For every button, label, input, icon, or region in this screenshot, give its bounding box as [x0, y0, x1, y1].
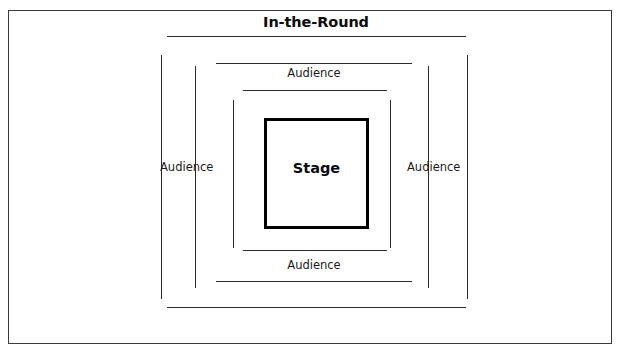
- stage-label: Stage: [264, 160, 369, 176]
- audience-label-right: Audience: [407, 160, 471, 174]
- ring-3-left-line: [233, 100, 234, 248]
- ring-3-right-line: [390, 100, 391, 248]
- ring-1-top-line: [167, 36, 466, 37]
- ring-1-left-line: [161, 55, 162, 299]
- audience-label-bottom: Audience: [216, 258, 412, 272]
- diagram-title: In-the-Round: [168, 14, 464, 30]
- ring-2-bottom-line: [216, 281, 412, 282]
- stage-configuration-diagram: In-the-Round Stage Audience Audience Aud…: [0, 0, 620, 352]
- ring-2-right-line: [428, 66, 429, 288]
- audience-label-left: Audience: [160, 160, 224, 174]
- ring-2-top-line: [216, 63, 412, 64]
- ring-3-top-line: [243, 90, 387, 91]
- ring-3-bottom-line: [243, 250, 387, 251]
- ring-1-bottom-line: [167, 307, 466, 308]
- audience-label-top: Audience: [216, 66, 412, 80]
- ring-2-left-line: [195, 66, 196, 288]
- ring-1-right-line: [467, 55, 468, 299]
